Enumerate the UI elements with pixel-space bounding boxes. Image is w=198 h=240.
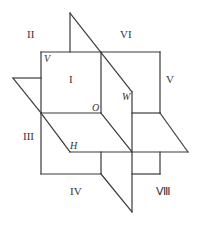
octant-label-iii: III <box>23 131 34 142</box>
plane-label-h: H <box>70 141 77 151</box>
octant-label-iv: IV <box>70 186 82 197</box>
octant-label-vi: VI <box>120 29 132 40</box>
origin-label: O <box>92 103 99 113</box>
octant-label-ii: II <box>27 29 34 40</box>
h-plane-left-diagonal <box>41 113 70 152</box>
octant-label-v: V <box>166 74 174 85</box>
plane-label-v: V <box>44 54 50 64</box>
octant-label-i: I <box>69 74 73 85</box>
h-plane-right-diagonal <box>160 113 188 152</box>
w-plane-bottom-diagonal <box>101 174 132 212</box>
octant-label-viii: Ⅷ <box>156 186 170 197</box>
plane-label-w: W <box>122 92 130 102</box>
h-plane-left-diagonal-back <box>13 78 41 113</box>
y-axis-line <box>101 113 132 152</box>
